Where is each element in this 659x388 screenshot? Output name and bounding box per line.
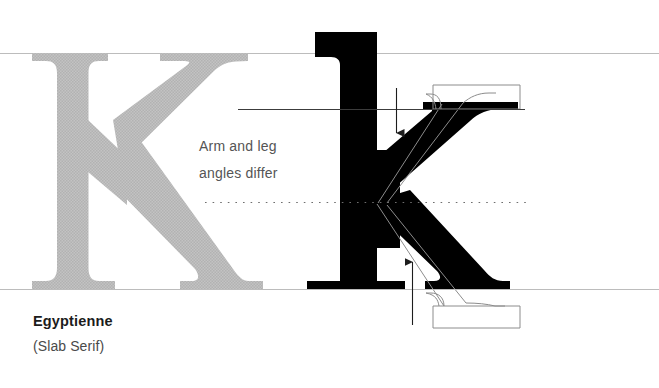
caption-block: Egyptienne (Slab Serif) <box>33 312 113 355</box>
typeface-name-label: Egyptienne <box>33 312 113 330</box>
typeface-classification-label: (Slab Serif) <box>33 337 113 355</box>
figure-canvas: Arm and leg angles differ Egyptienne (Sl… <box>0 0 659 388</box>
annotation-text-block: Arm and leg angles differ <box>199 133 278 187</box>
specimen-lowercase-k <box>307 32 518 289</box>
annotation-line-2: angles differ <box>199 160 278 187</box>
annotation-line-1: Arm and leg <box>199 133 278 160</box>
